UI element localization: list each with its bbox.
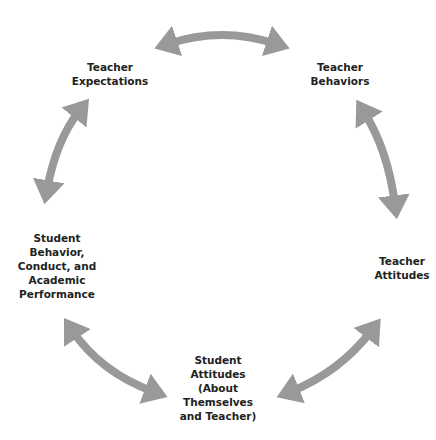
arrow-behaviors-attitudes (364, 112, 395, 205)
node-student-attitudes: Student Attitudes (About Themselves and … (180, 353, 257, 423)
node-student-behavior: Student Behavior, Conduct, and Academic … (18, 231, 96, 301)
node-teacher-expectations: Teacher Expectations (72, 60, 148, 88)
node-teacher-behaviors: Teacher Behaviors (311, 60, 370, 88)
node-teacher-attitudes: Teacher Attitudes (374, 254, 429, 282)
arrow-student-behavior-expectations (47, 110, 80, 190)
arrow-expectations-behaviors (168, 35, 276, 44)
arrow-student-attitudes-student-behavior (72, 330, 154, 392)
arrow-attitudes-student-attitudes (290, 330, 372, 392)
